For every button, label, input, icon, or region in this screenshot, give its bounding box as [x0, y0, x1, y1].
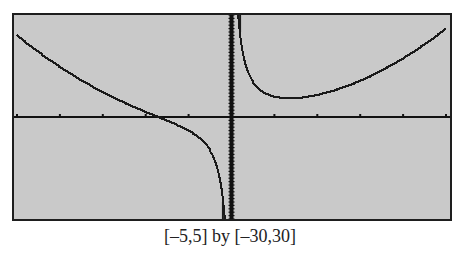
y-axis	[229, 15, 235, 219]
function-plot	[14, 15, 450, 219]
calculator-graph-screen	[12, 13, 452, 221]
curve-branch	[238, 15, 446, 98]
curve-branch	[17, 35, 225, 219]
window-caption: [–5,5] by [–30,30]	[0, 226, 460, 247]
